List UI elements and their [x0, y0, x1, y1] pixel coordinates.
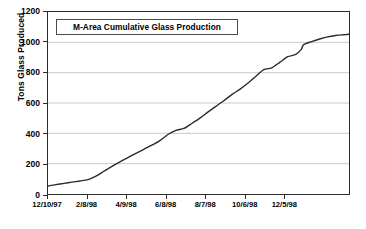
chart-title: M-Area Cumulative Glass Production [73, 22, 221, 32]
y-tick-mark [43, 164, 47, 165]
y-tick-mark [43, 103, 47, 104]
x-tick-mark [126, 195, 127, 199]
y-tick-mark [43, 11, 47, 12]
y-tick-label: 600 [0, 98, 40, 108]
x-tick-mark [245, 195, 246, 199]
chart-title-box: M-Area Cumulative Glass Production [56, 19, 238, 35]
x-tick-mark [47, 195, 48, 199]
y-tick-label: 1000 [0, 37, 40, 47]
x-tick-mark [205, 195, 206, 199]
plot-area [47, 11, 350, 195]
y-tick-mark [43, 133, 47, 134]
x-tick-mark [87, 195, 88, 199]
x-tick-mark [166, 195, 167, 199]
y-tick-label: 1200 [0, 6, 40, 16]
y-tick-label: 200 [0, 159, 40, 169]
y-tick-label: 800 [0, 67, 40, 77]
x-tick-label: 12/5/98 [254, 200, 314, 209]
line-series-svg [48, 12, 349, 194]
gridlines-group [48, 42, 349, 163]
y-tick-label: 0 [0, 190, 40, 200]
chart-figure: Tons Glass Produced 02004006008001000120… [0, 0, 366, 229]
y-tick-label: 400 [0, 129, 40, 139]
x-tick-mark [284, 195, 285, 199]
y-tick-mark [43, 41, 47, 42]
y-tick-mark [43, 72, 47, 73]
